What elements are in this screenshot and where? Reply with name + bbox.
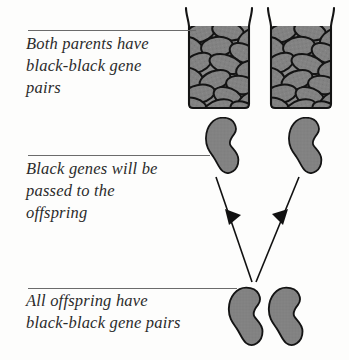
inheritance-arrow-right bbox=[256, 177, 299, 282]
inheritance-arrow-left bbox=[216, 177, 252, 282]
parent-gene-bean-right bbox=[289, 118, 321, 173]
caption-passed: Black genes will be passed to the offspr… bbox=[26, 158, 191, 224]
parent-jar-right bbox=[256, 8, 347, 122]
parent-gene-bean-left bbox=[206, 118, 238, 173]
caption-offspring: All offspring have black-black gene pair… bbox=[26, 290, 231, 334]
genetics-diagram-figure: Both parents have black-black gene pairs… bbox=[0, 0, 349, 360]
leader-line-parents bbox=[28, 30, 196, 31]
offspring-bean-right bbox=[269, 288, 303, 345]
leader-line-passed bbox=[28, 155, 210, 156]
offspring-bean-left bbox=[229, 288, 263, 345]
leader-line-offspring bbox=[28, 288, 237, 289]
caption-parents: Both parents have black-black gene pairs bbox=[26, 33, 191, 99]
